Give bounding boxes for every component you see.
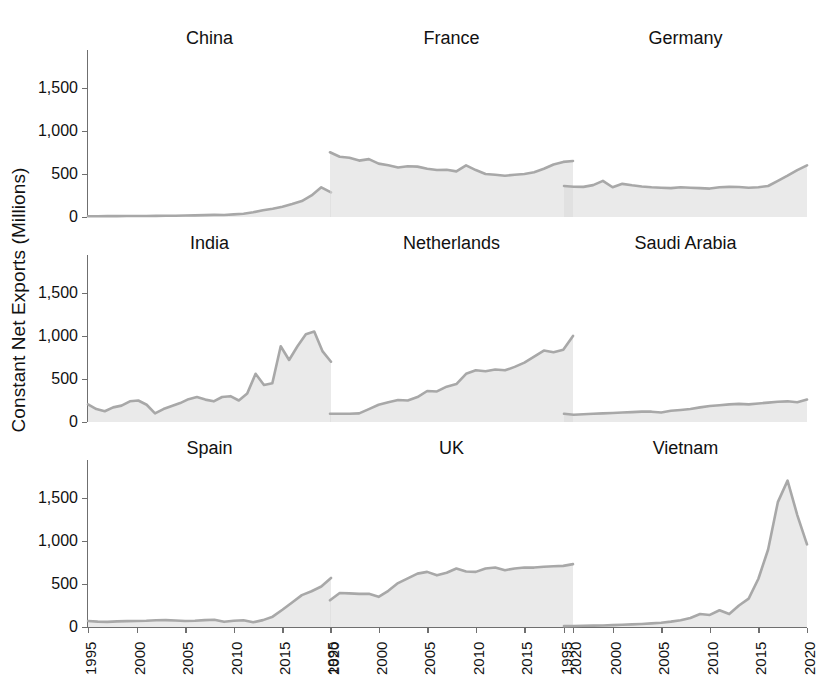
panel-germany: Germany: [516, 28, 807, 223]
x-axis-line: [564, 627, 807, 628]
x-tick: [476, 628, 477, 633]
y-tick-label: 1,500: [24, 284, 78, 302]
y-tick: [82, 174, 87, 175]
x-tick: [379, 628, 380, 633]
series-plot: [564, 62, 807, 217]
x-tick: [137, 628, 138, 633]
x-tick-label: 2005: [421, 642, 438, 675]
series-plot: [564, 472, 807, 627]
x-tick-label: 2005: [179, 642, 196, 675]
panel-title: Saudi Arabia: [564, 233, 807, 254]
x-tick: [661, 628, 662, 633]
x-tick: [88, 628, 89, 633]
y-tick-label: 1,000: [24, 122, 78, 140]
x-tick-label: 1995: [324, 642, 341, 675]
y-tick: [82, 541, 87, 542]
y-tick-label: 1,500: [24, 79, 78, 97]
y-tick: [82, 293, 87, 294]
series-plot: [564, 267, 807, 422]
y-tick-label: 500: [24, 575, 78, 593]
x-tick-label: 2015: [276, 642, 293, 675]
x-tick-label: 2000: [607, 642, 624, 675]
panel-vietnam: Vietnam199520002005201020152020: [516, 438, 807, 633]
x-tick-label: 2005: [655, 642, 672, 675]
x-tick-label: 2015: [752, 642, 769, 675]
panel-title: Vietnam: [564, 438, 807, 459]
y-tick: [82, 379, 87, 380]
x-tick-label: 2010: [228, 642, 245, 675]
panel-grid: China05001,0001,500FranceGermanyIndia050…: [40, 14, 835, 674]
x-tick-label: 1995: [558, 642, 575, 675]
x-tick: [234, 628, 235, 633]
y-tick: [82, 584, 87, 585]
y-tick-label: 1,500: [24, 489, 78, 507]
y-tick-label: 500: [24, 370, 78, 388]
x-tick-label: 2010: [470, 642, 487, 675]
y-tick-label: 1,000: [24, 327, 78, 345]
x-tick: [564, 628, 565, 633]
panel-title: Germany: [564, 28, 807, 49]
y-tick: [82, 498, 87, 499]
y-tick: [82, 336, 87, 337]
x-tick-label: 2000: [373, 642, 390, 675]
series-area: [564, 481, 807, 627]
x-tick-label: 2000: [131, 642, 148, 675]
x-tick-label: 2010: [704, 642, 721, 675]
x-tick-label: 2015: [518, 642, 535, 675]
x-tick: [185, 628, 186, 633]
y-tick: [82, 217, 87, 218]
y-tick-label: 0: [24, 413, 78, 431]
y-tick: [82, 88, 87, 89]
x-tick: [330, 628, 331, 633]
panel-saudi-arabia: Saudi Arabia: [516, 233, 807, 428]
x-tick: [427, 628, 428, 633]
x-tick-label: 1995: [82, 642, 99, 675]
y-tick-label: 500: [24, 165, 78, 183]
chart-figure: Constant Net Exports (Millions) China050…: [0, 0, 839, 681]
y-tick-label: 0: [24, 208, 78, 226]
series-area: [564, 165, 807, 217]
y-tick: [82, 422, 87, 423]
y-tick-label: 0: [24, 618, 78, 636]
x-tick: [710, 628, 711, 633]
y-tick: [82, 131, 87, 132]
x-tick: [613, 628, 614, 633]
x-tick-label: 2020: [801, 642, 818, 675]
y-tick-label: 1,000: [24, 532, 78, 550]
x-tick: [807, 628, 808, 633]
x-tick: [758, 628, 759, 633]
